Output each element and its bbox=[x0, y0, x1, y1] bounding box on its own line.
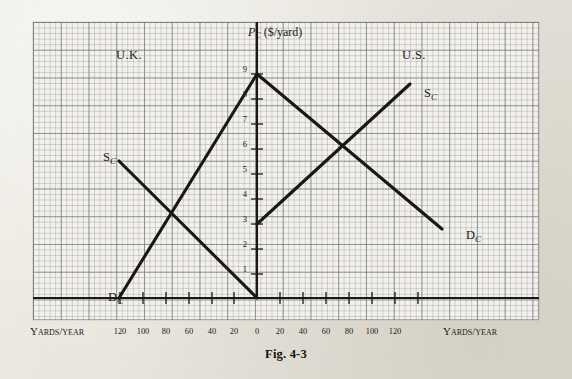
x-tick-left-40: 40 bbox=[208, 327, 216, 336]
uk-supply-label: SC bbox=[103, 150, 116, 166]
x-tick-left-0: 0 bbox=[255, 327, 259, 336]
y-axis-title: PC ($/yard) bbox=[248, 25, 302, 40]
x-tick-left-20: 20 bbox=[230, 327, 238, 336]
uk-demand-curve bbox=[119, 74, 257, 298]
x-tick-left-120: 120 bbox=[114, 327, 127, 336]
us-supply-curve bbox=[257, 84, 410, 224]
y-tick-7: 7 bbox=[243, 114, 247, 124]
panel-label-uk: U.K. bbox=[116, 48, 142, 63]
panel-label-us: U.S. bbox=[402, 48, 426, 63]
y-tick-8: 8 bbox=[243, 89, 247, 99]
x-tick-left-80: 80 bbox=[162, 327, 170, 336]
y-tick-1: 1 bbox=[243, 264, 247, 274]
x-tick-left-100: 100 bbox=[137, 327, 150, 336]
figure-caption: Fig. 4-3 bbox=[0, 347, 572, 362]
chart-curves-svg bbox=[33, 22, 539, 320]
y-axis-title-units: ($/yard) bbox=[264, 25, 303, 39]
uk-supply-curve bbox=[119, 161, 257, 298]
x-tick-right-60: 60 bbox=[322, 327, 330, 336]
x-tick-right-20: 20 bbox=[276, 327, 284, 336]
y-axis-title-subscript: C bbox=[255, 31, 260, 40]
x-tick-left-60: 60 bbox=[185, 327, 193, 336]
us-demand-curve bbox=[257, 74, 442, 229]
y-tick-5: 5 bbox=[243, 164, 247, 174]
chart-plot-area bbox=[33, 22, 539, 320]
x-tick-right-120: 120 bbox=[389, 327, 402, 336]
x-tick-right-100: 100 bbox=[366, 327, 379, 336]
y-tick-3: 3 bbox=[243, 214, 247, 224]
x-tick-right-80: 80 bbox=[345, 327, 353, 336]
y-tick-2: 2 bbox=[243, 239, 247, 249]
us-supply-label: SC bbox=[424, 86, 437, 102]
y-tick-4: 4 bbox=[243, 189, 247, 199]
uk-demand-label: DC bbox=[108, 290, 123, 306]
x-axis-title-left: Yards/year bbox=[30, 325, 84, 337]
y-tick-9: 9 bbox=[243, 64, 247, 74]
y-tick-6: 6 bbox=[243, 139, 247, 149]
x-tick-right-40: 40 bbox=[299, 327, 307, 336]
us-demand-label: DC bbox=[466, 228, 481, 244]
x-axis-title-right: Yards/year bbox=[443, 325, 497, 337]
